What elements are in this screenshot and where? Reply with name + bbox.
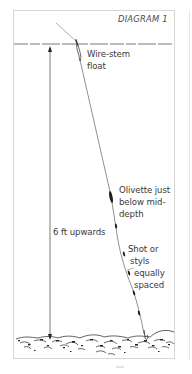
gravel-riverbed <box>16 330 174 355</box>
shot-label-line3: equally <box>134 268 165 279</box>
shot-icon <box>132 290 136 296</box>
shot-icon <box>115 223 118 228</box>
olivette-label-line3: depth <box>119 209 144 220</box>
depth-arrow <box>48 46 52 340</box>
depth-label: 6 ft upwards <box>53 227 106 238</box>
olivette-label-line2: below mid- <box>119 197 165 208</box>
float-label-line2: float <box>87 61 106 72</box>
page-footmark <box>116 366 124 368</box>
shot-label-line2: styls <box>130 256 149 267</box>
leader-tick <box>127 268 134 270</box>
hook-icon <box>144 330 148 339</box>
shot-label-line1: Shot or <box>128 244 158 255</box>
wire-stem-float-icon <box>76 39 81 61</box>
olivette-weight-icon <box>108 191 114 203</box>
olivette-label-line1: Olivette just <box>119 185 170 196</box>
rod-line <box>56 23 77 42</box>
shot-icon <box>127 270 131 276</box>
shot-icon <box>122 251 125 257</box>
float-label-line1: Wire-stem <box>87 49 130 60</box>
shot-label-line4: spaced <box>134 280 164 291</box>
gravel-specks <box>18 339 170 353</box>
